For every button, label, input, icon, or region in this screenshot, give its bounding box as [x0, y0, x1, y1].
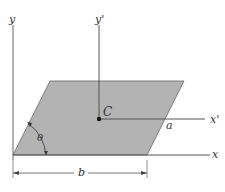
parallelogram-diagram — [0, 0, 225, 192]
centroid-label: C — [103, 106, 112, 118]
dim-arrow-left — [13, 171, 19, 175]
x-prime-axis-label: x' — [210, 114, 219, 125]
x-axis-label: x — [212, 149, 218, 160]
dim-arrow-right — [141, 171, 147, 175]
angle-label: θ — [37, 133, 43, 143]
centroid-point — [97, 117, 101, 121]
side-a-label: a — [166, 120, 173, 131]
base-b-label: b — [78, 167, 85, 178]
y-prime-axis-label: y' — [95, 14, 104, 25]
y-axis-label: y — [9, 14, 15, 25]
